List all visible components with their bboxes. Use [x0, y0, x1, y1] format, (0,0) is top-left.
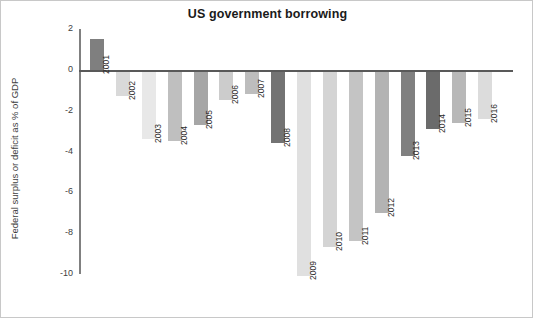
x-tick-label: 2004	[180, 126, 189, 145]
bar[interactable]	[297, 72, 311, 276]
bar-group: 2009	[292, 29, 318, 274]
bar-group: 2004	[163, 29, 189, 274]
x-tick-label: 2005	[205, 110, 214, 129]
x-tick-label: 2011	[361, 227, 370, 245]
y-axis-title-wrapper: Federal surplus or deficit as % of GDP	[3, 1, 25, 318]
x-tick-label: 2016	[490, 104, 499, 123]
x-tick-label: 2001	[102, 55, 111, 74]
y-tick-label: 0	[43, 65, 73, 74]
y-tick-label: -10	[43, 269, 73, 278]
x-tick-label: 2015	[464, 108, 473, 127]
x-tick-label: 2010	[335, 232, 344, 251]
bar-group: 2001	[85, 29, 111, 274]
y-axis-title: Federal surplus or deficit as % of GDP	[9, 44, 20, 274]
bar-group: 2014	[421, 29, 447, 274]
x-tick-label: 2012	[387, 198, 396, 217]
bar-group: 2006	[214, 29, 240, 274]
bar-group: 2012	[370, 29, 396, 274]
y-tick-label: 2	[43, 24, 73, 33]
x-tick-label: 2009	[309, 261, 318, 280]
y-axis-spine	[79, 29, 81, 274]
x-tick-label: 2002	[128, 81, 137, 100]
y-tick-label: -6	[43, 187, 73, 196]
bar-group: 2010	[318, 29, 344, 274]
plot-area: 2001200220032004200520062007200820092010…	[79, 29, 513, 274]
bar-group: 2008	[266, 29, 292, 274]
x-tick-label: 2008	[283, 128, 292, 147]
x-tick-label: 2013	[412, 141, 421, 160]
y-tick-label: -4	[43, 147, 73, 156]
bar-group: 2011	[344, 29, 370, 274]
bar[interactable]	[349, 72, 363, 241]
bar-group: 2005	[189, 29, 215, 274]
bar-group: 2007	[240, 29, 266, 274]
bar-group: 2013	[396, 29, 422, 274]
bar[interactable]	[375, 72, 389, 213]
bar-group: 2002	[111, 29, 137, 274]
chart-container: US government borrowing Federal surplus …	[0, 0, 533, 318]
bar-group: 2016	[473, 29, 499, 274]
x-tick-label: 2007	[257, 79, 266, 98]
x-tick-label: 2006	[231, 85, 240, 104]
bar-group: 2003	[137, 29, 163, 274]
chart-title: US government borrowing	[1, 7, 533, 21]
bar-group: 2015	[447, 29, 473, 274]
y-axis-tick-labels: 20-2-4-6-8-10	[39, 29, 73, 274]
x-tick-label: 2014	[438, 114, 447, 133]
x-tick-label: 2003	[154, 124, 163, 143]
bar[interactable]	[323, 72, 337, 248]
y-tick-label: -8	[43, 228, 73, 237]
y-tick-label: -2	[43, 106, 73, 115]
